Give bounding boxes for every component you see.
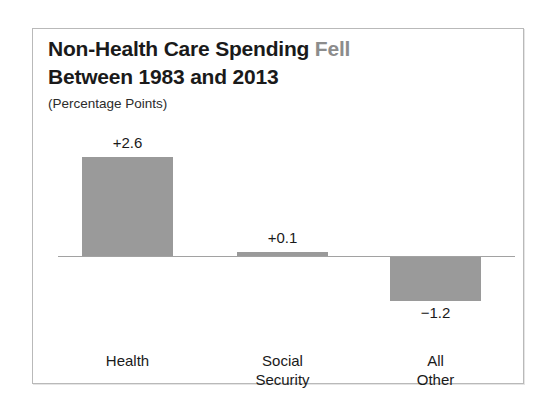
category-label-all-other-line-2: Other (370, 370, 501, 389)
plot-area: +2.6 +0.1 −1.2 Health Social Security Al… (33, 29, 525, 385)
category-label-social-security-line-1: Social (217, 351, 348, 370)
category-label-health-line-1: Health (62, 351, 193, 370)
figure-frame: Non-Health Care Spending Fell Between 19… (32, 28, 524, 384)
bar-value-all-other: −1.2 (390, 304, 481, 321)
category-label-all-other: All Other (370, 351, 501, 389)
bar-health (82, 157, 173, 256)
bar-value-social-security: +0.1 (237, 229, 328, 246)
bar-all-other (390, 257, 481, 301)
bar-social-security (237, 252, 328, 256)
category-label-social-security-line-2: Security (217, 370, 348, 389)
bar-value-health: +2.6 (82, 134, 173, 151)
category-label-all-other-line-1: All (370, 351, 501, 370)
category-label-social-security: Social Security (217, 351, 348, 389)
category-label-health: Health (62, 351, 193, 370)
